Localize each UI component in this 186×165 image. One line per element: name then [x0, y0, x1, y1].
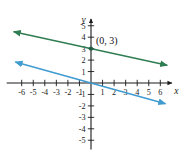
intercept-point-marker [89, 47, 93, 51]
x-tick-label: -2 [64, 88, 71, 97]
y-tick-label: 1 [81, 68, 85, 77]
x-tick-label: 5 [147, 88, 151, 97]
axes-group [7, 19, 172, 150]
y-tick-label: -4 [79, 125, 86, 134]
graph-canvas: -6-5-4-3-2-1123456 -5-4-3-2-112345 (0, 3… [0, 0, 186, 165]
point-annotations: (0, 3) [96, 35, 118, 47]
x-tick-label: -6 [18, 88, 25, 97]
y-axis-label: y [81, 15, 87, 25]
y-tick-label: 4 [81, 33, 85, 42]
annotation-label: (0, 3) [96, 35, 118, 47]
x-tick-label: -3 [53, 88, 60, 97]
x-tick-label: 1 [101, 88, 105, 97]
x-tick-label: -5 [30, 88, 37, 97]
y-tick-label: -5 [79, 136, 86, 145]
x-tick-label: -4 [41, 88, 48, 97]
x-tick-label: 6 [158, 88, 162, 97]
x-axis-label: x [173, 86, 179, 96]
y-tick-label: -1 [79, 90, 86, 99]
y-tick-label: 2 [81, 56, 85, 65]
plotted-points [89, 47, 93, 51]
coordinate-graph-figure: -6-5-4-3-2-1123456 -5-4-3-2-112345 (0, 3… [0, 0, 186, 165]
x-axis-tick-labels: -6-5-4-3-2-1123456 [18, 88, 162, 97]
y-tick-label: -3 [79, 113, 86, 122]
y-tick-label: -2 [79, 102, 86, 111]
